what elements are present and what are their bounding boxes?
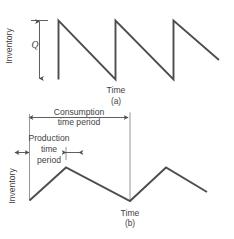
panel-a-x-axis-label: Time: [107, 85, 126, 95]
figure-canvas: Inventory Q Time (a) Consumption time pe…: [0, 0, 234, 239]
figure-background: [0, 0, 234, 239]
panel-b-production-label-line3: period: [37, 155, 61, 165]
panel-a-caption: (a): [111, 96, 121, 106]
panel-a-y-axis-label: Inventory: [4, 28, 14, 64]
panel-b-production-label-line2: time: [41, 144, 57, 154]
panel-a-quantity-label: Q: [32, 39, 39, 50]
panel-b-x-axis-label: Time: [121, 208, 140, 218]
panel-b-consumption-label-line2: time period: [58, 117, 101, 127]
panel-b-caption: (b): [125, 218, 135, 228]
panel-b-consumption-label-line1: Consumption: [54, 107, 105, 117]
panel-b-y-axis-label: Inventory: [7, 168, 17, 204]
inventory-models-figure: Inventory Q Time (a) Consumption time pe…: [0, 0, 234, 239]
panel-b-production-label-line1: Production: [28, 133, 69, 143]
